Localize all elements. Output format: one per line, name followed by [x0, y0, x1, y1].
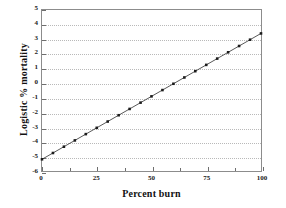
x-tick-0 [42, 167, 43, 171]
x-tick-25 [97, 167, 98, 171]
y-tick--5 [42, 158, 46, 159]
y-tick--4 [42, 143, 46, 144]
chart-figure: 543210-1-2-3-4-5-6 0255075100 Logistic %… [0, 0, 286, 208]
data-point-5 [52, 152, 55, 155]
y-tick--3 [42, 129, 46, 130]
data-point-20 [85, 133, 88, 136]
plot-area [41, 9, 262, 172]
data-point-15 [74, 139, 77, 142]
data-point-40 [128, 108, 131, 111]
x-minor-tick-62.5 [180, 168, 181, 171]
data-point-55 [161, 89, 164, 92]
x-tick-75 [208, 167, 209, 171]
gridline-y-4 [42, 25, 261, 26]
x-axis-title: Percent burn [41, 188, 262, 199]
x-tick-label-75: 75 [192, 175, 222, 182]
y-tick-3 [42, 40, 46, 41]
data-point-75 [205, 64, 208, 67]
y-axis-title: Logistic % mortality [18, 5, 29, 175]
x-tick-label-50: 50 [137, 175, 167, 182]
gridline-y--2 [42, 114, 261, 115]
gridline-y-1 [42, 69, 261, 70]
y-axis-ticks [42, 10, 261, 171]
x-tick-50 [153, 167, 154, 171]
series-svg [42, 10, 261, 171]
data-point-70 [194, 70, 197, 73]
x-minor-tick-12.5 [70, 168, 71, 171]
data-point-45 [139, 101, 142, 104]
y-tick-1 [42, 69, 46, 70]
data-point-35 [117, 114, 120, 117]
data-point-65 [183, 76, 186, 79]
data-point-10 [63, 145, 66, 148]
x-tick-label-25: 25 [81, 175, 111, 182]
gridline-y-2 [42, 54, 261, 55]
x-axis-ticks [42, 10, 261, 171]
data-point-0 [41, 158, 44, 161]
data-series-layer [42, 10, 261, 171]
y-tick-2 [42, 54, 46, 55]
data-point-60 [172, 82, 175, 85]
y-tick--2 [42, 114, 46, 115]
x-tick-100 [263, 167, 264, 171]
data-point-100 [260, 32, 263, 35]
data-point-80 [216, 57, 219, 60]
x-tick-label-0: 0 [26, 175, 56, 182]
data-point-85 [227, 51, 230, 54]
gridline-y--4 [42, 143, 261, 144]
data-point-50 [150, 95, 153, 98]
gridline-y--3 [42, 129, 261, 130]
gridlines [42, 10, 261, 171]
data-point-95 [249, 38, 252, 41]
data-point-90 [238, 45, 241, 48]
y-tick-0 [42, 84, 46, 85]
series-markers [41, 32, 263, 160]
x-minor-tick-37.5 [125, 168, 126, 171]
x-minor-tick-87.5 [235, 168, 236, 171]
y-tick--1 [42, 99, 46, 100]
gridline-y-0 [42, 84, 261, 85]
gridline-y--1 [42, 99, 261, 100]
data-point-25 [95, 127, 98, 130]
gridline-y-3 [42, 40, 261, 41]
gridline-y--5 [42, 158, 261, 159]
data-point-30 [106, 120, 109, 123]
y-tick-5 [42, 10, 46, 11]
x-tick-label-100: 100 [247, 175, 277, 182]
y-tick-4 [42, 25, 46, 26]
series-line-logistic-fit [42, 33, 261, 159]
